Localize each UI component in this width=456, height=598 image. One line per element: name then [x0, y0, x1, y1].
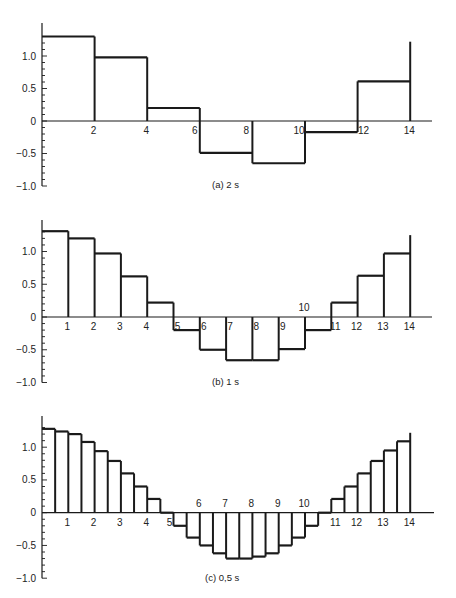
- x-tick-label: 4: [143, 125, 149, 136]
- x-tick-label: 3: [117, 321, 123, 332]
- x-tick-label: 6: [196, 498, 202, 509]
- y-tick-label: 1.0: [22, 246, 36, 257]
- x-tick-label: 1: [65, 517, 71, 528]
- x-tick-label: 12: [351, 321, 363, 332]
- chart-caption: (a) 2 s: [212, 179, 239, 190]
- x-tick-label: 12: [351, 517, 363, 528]
- chart-panel-a: 1.00.50−0.5−1.02468101214(a) 2 s: [16, 23, 432, 192]
- y-tick-label: 1.0: [22, 442, 36, 453]
- x-tick-label: 9: [280, 321, 286, 332]
- x-tick-label: 6: [201, 321, 207, 332]
- x-tick-label: 13: [377, 517, 389, 528]
- x-tick-label: 3: [117, 517, 123, 528]
- x-tick-label: 8: [249, 498, 255, 509]
- x-tick-label: 4: [143, 517, 149, 528]
- y-tick-label: 0.5: [22, 83, 36, 94]
- x-tick-label: 2: [91, 321, 97, 332]
- x-tick-label: 5: [175, 321, 181, 332]
- x-tick-label: 7: [227, 321, 233, 332]
- y-tick-label: 0: [30, 116, 36, 127]
- x-tick-label: 14: [404, 517, 416, 528]
- x-tick-label: 10: [298, 302, 310, 313]
- x-tick-label: 11: [330, 517, 341, 528]
- x-tick-label: 11: [330, 321, 341, 332]
- y-tick-label: −0.5: [16, 344, 36, 355]
- chart-panel-c: 1.00.50−0.5−1.01234567891011121314(c) 0,…: [16, 416, 434, 584]
- figure: 1.00.50−0.5−1.02468101214(a) 2 s1.00.50−…: [0, 0, 456, 598]
- y-tick-label: 1.0: [22, 51, 36, 62]
- x-tick-label: 10: [293, 125, 305, 136]
- x-tick-label: 13: [377, 321, 389, 332]
- x-tick-label: 8: [244, 125, 250, 136]
- x-tick-label: 4: [143, 321, 149, 332]
- y-tick-label: 0: [30, 312, 36, 323]
- chart-caption: (c) 0,5 s: [205, 572, 240, 583]
- x-tick-label: 14: [404, 125, 416, 136]
- x-tick-label: 10: [298, 498, 310, 509]
- step-charts: 1.00.50−0.5−1.02468101214(a) 2 s1.00.50−…: [0, 0, 456, 598]
- x-tick-label: 9: [275, 498, 281, 509]
- x-tick-label: 2: [91, 517, 97, 528]
- y-tick-label: 0: [30, 507, 36, 518]
- x-tick-label: 6: [192, 125, 198, 136]
- x-tick-label: 1: [65, 321, 71, 332]
- chart-caption: (b) 1 s: [212, 376, 239, 387]
- y-tick-label: 0.5: [22, 279, 36, 290]
- x-tick-label: 12: [358, 125, 370, 136]
- chart-panel-b: 1.00.50−0.5−1.01234567891011121314(b) 1 …: [16, 220, 432, 388]
- y-tick-label: −0.5: [16, 148, 36, 159]
- x-tick-label: 8: [254, 321, 260, 332]
- y-tick-label: −1.0: [16, 377, 36, 388]
- x-tick-label: 2: [91, 125, 97, 136]
- y-tick-label: −1.0: [16, 573, 36, 584]
- y-tick-label: 0.5: [22, 474, 36, 485]
- x-tick-label: 7: [222, 498, 228, 509]
- x-tick-label: 5: [167, 517, 173, 528]
- y-tick-label: −0.5: [16, 540, 36, 551]
- x-tick-label: 14: [404, 321, 416, 332]
- y-tick-label: −1.0: [16, 181, 36, 192]
